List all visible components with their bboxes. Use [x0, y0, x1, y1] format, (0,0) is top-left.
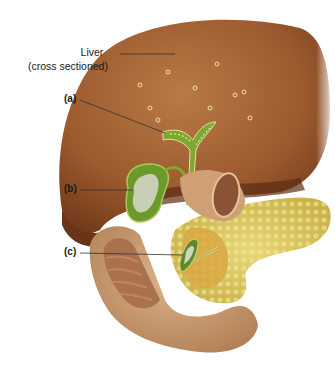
liver-label: Liver [52, 46, 132, 59]
liver-label-line1: Liver [52, 46, 132, 59]
label-a: (a) [64, 93, 76, 104]
anatomy-illustration [0, 0, 335, 365]
liver-label-sub: (cross sectioned) [23, 60, 113, 73]
label-c: (c) [64, 246, 76, 257]
label-b: (b) [64, 183, 77, 194]
liver-label-line2: (cross sectioned) [23, 60, 113, 73]
